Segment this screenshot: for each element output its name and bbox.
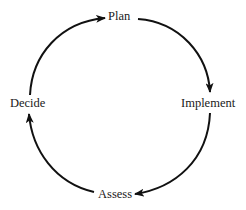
- node-assess: Assess: [98, 188, 132, 201]
- node-plan: Plan: [108, 10, 130, 23]
- arrow-implement-to-assess: [135, 113, 210, 194]
- node-implement: Implement: [181, 97, 235, 110]
- arrow-plan-to-implement: [138, 19, 210, 92]
- arrow-assess-to-decide: [29, 114, 94, 192]
- arrow-decide-to-plan: [30, 18, 105, 95]
- node-decide: Decide: [10, 97, 45, 110]
